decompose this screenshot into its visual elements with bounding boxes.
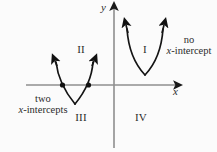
x-intercept-point-right — [86, 82, 91, 87]
no-intercept-annotation: no x-intercept — [167, 34, 212, 56]
two-intercepts-suffix: -intercepts — [23, 104, 67, 115]
no-intercept-suffix: -intercept — [171, 45, 211, 56]
quadratic-intercepts-figure: y x I II III IV two x-intercepts no x-in… — [0, 0, 217, 152]
no-intercept-line1: no — [167, 34, 212, 45]
parabola-no-intercept-right-arm — [145, 29, 163, 75]
two-intercepts-line1: two — [19, 93, 68, 104]
two-intercepts-line2: x-intercepts — [19, 104, 68, 115]
parabola-two-intercepts-right-arm — [75, 62, 93, 104]
x-intercept-point-left — [60, 82, 65, 87]
graph-canvas — [0, 0, 217, 152]
y-axis-label: y — [101, 2, 106, 14]
parabola-no-intercept-left-tip-icon — [126, 25, 128, 33]
quadrant-label-i: I — [143, 44, 147, 56]
quadrant-label-ii: II — [77, 44, 85, 56]
two-intercepts-annotation: two x-intercepts — [19, 93, 68, 115]
no-intercept-line2: x-intercept — [167, 45, 212, 56]
x-axis-label: x — [173, 86, 178, 98]
quadrant-label-iii: III — [75, 112, 87, 124]
parabola-no-intercept-right-tip-icon — [162, 25, 164, 33]
quadrant-label-iv: IV — [135, 112, 147, 124]
